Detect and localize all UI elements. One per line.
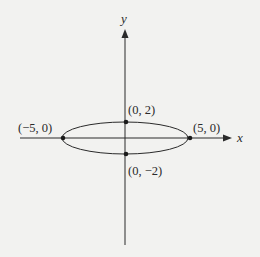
ellipse-diagram: x y (−5, 0) (5, 0) (0, 2) (0, −2) xyxy=(0,0,260,257)
label-vertex-right: (5, 0) xyxy=(193,121,220,135)
y-axis: y xyxy=(119,11,129,245)
point-covertex-bottom xyxy=(124,152,129,157)
point-vertex-left xyxy=(61,136,66,141)
label-covertex-top: (0, 2) xyxy=(128,103,155,117)
point-vertex-right xyxy=(188,136,193,141)
x-axis-label: x xyxy=(236,130,243,145)
label-covertex-bottom: (0, −2) xyxy=(128,164,162,178)
y-axis-arrow-icon xyxy=(122,29,129,38)
label-vertex-left: (−5, 0) xyxy=(18,121,52,135)
x-axis-arrow-icon xyxy=(223,135,232,142)
y-axis-label: y xyxy=(119,11,127,26)
point-covertex-top xyxy=(124,120,129,125)
